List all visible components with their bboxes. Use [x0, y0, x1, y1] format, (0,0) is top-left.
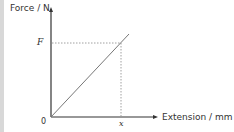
y-axis-label: Force / N: [10, 4, 50, 13]
f-marker-label: F: [37, 38, 43, 47]
x-marker-label: x: [119, 120, 124, 128]
x-axis-arrow-icon: [153, 115, 158, 119]
x-axis-label: Extension / mm: [162, 113, 232, 122]
origin-label: 0: [41, 118, 46, 126]
force-extension-line: [51, 34, 129, 117]
